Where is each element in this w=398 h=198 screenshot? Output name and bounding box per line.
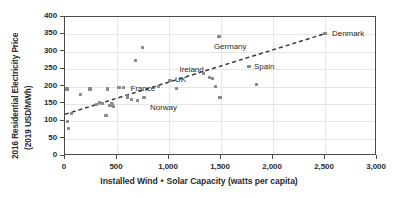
point-label-uk: UK [175,75,186,84]
x-axis-title: Installed Wind • Solar Capacity (watts p… [0,176,398,186]
x-tick-label: 1,000 [158,162,178,171]
point-label-norway: Norway [150,103,177,112]
y-axis-title: 2016 Residential Electricity Price (2019… [0,0,40,165]
plot-area: NorwayFranceUKIrelandGermanySpainDenmark [64,16,376,155]
y-axis-title-line1: 2016 Residential Electricity Price [11,33,20,159]
point-label-spain: Spain [254,62,274,71]
point-label-france: France [131,84,156,93]
x-axis-title-text: Installed Wind • Solar Capacity (watts p… [100,176,297,186]
point-label-germany: Germany [214,42,247,51]
y-axis-title-line2: (2019 USD/MWh) [24,86,33,150]
point-labels: NorwayFranceUKIrelandGermanySpainDenmark [65,17,375,154]
x-tick-label: 3,000 [366,162,386,171]
point-label-denmark: Denmark [332,29,364,38]
x-tick-label: 0 [62,162,66,171]
scatter-chart: 2016 Residential Electricity Price (2019… [0,0,398,198]
x-tick-label: 1,500 [210,162,230,171]
x-tick-label: 2,000 [262,162,282,171]
x-tick-label: 500 [109,162,122,171]
point-label-ireland: Ireland [180,65,204,74]
x-tick-label: 2,500 [314,162,334,171]
x-axis-title-separator: • [160,176,164,186]
